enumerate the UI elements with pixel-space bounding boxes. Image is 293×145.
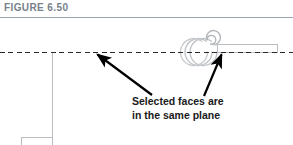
right-callout-arrow xyxy=(204,55,222,97)
drawing-canvas xyxy=(0,0,293,145)
scroll-part-outline xyxy=(181,31,221,66)
left-part-outline xyxy=(21,53,53,145)
annotation-line-2: in the same plane xyxy=(132,109,224,123)
flat-tab-outline xyxy=(218,45,278,53)
annotation-line-1: Selected faces are xyxy=(132,95,224,109)
left-callout-arrow xyxy=(98,55,153,96)
scroll-inner-coil xyxy=(206,31,220,45)
technical-drawing xyxy=(0,0,293,145)
callout-annotation: Selected faces are in the same plane xyxy=(132,95,224,122)
figure-screenshot: FIGURE 6.50 xyxy=(0,0,293,145)
flat-tab-rect xyxy=(218,45,278,53)
